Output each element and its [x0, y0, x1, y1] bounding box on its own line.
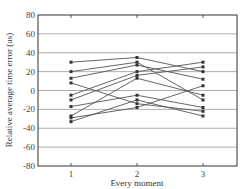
data-point-marker	[136, 64, 139, 67]
data-point-marker	[136, 74, 139, 77]
y-axis-title: Relative average time error (us)	[4, 33, 14, 147]
y-tick-label: 60	[26, 29, 36, 39]
y-tick-label: -40	[23, 123, 35, 133]
data-point-marker	[70, 120, 73, 123]
y-tick-label: 40	[26, 48, 36, 58]
x-tick-label: 3	[201, 169, 206, 179]
data-point-marker	[70, 94, 73, 97]
data-point-marker	[202, 114, 205, 117]
data-point-marker	[70, 61, 73, 64]
data-point-marker	[202, 106, 205, 109]
x-tick-label: 1	[69, 169, 74, 179]
y-axis-ticks: 806040200-20-40-60-80	[23, 10, 36, 171]
y-tick-label: -60	[23, 142, 35, 152]
data-point-marker	[136, 106, 139, 109]
y-tick-label: 0	[31, 86, 36, 96]
data-point-marker	[136, 77, 139, 80]
y-tick-label: 80	[26, 10, 36, 20]
data-point-marker	[202, 65, 205, 68]
data-point-marker	[202, 110, 205, 113]
data-point-marker	[202, 84, 205, 87]
data-point-marker	[70, 105, 73, 108]
data-point-marker	[136, 102, 139, 105]
data-point-marker	[202, 98, 205, 101]
data-point-marker	[136, 61, 139, 64]
data-point-marker	[202, 94, 205, 97]
y-tick-label: -20	[23, 104, 35, 114]
data-point-marker	[70, 81, 73, 84]
data-point-marker	[70, 98, 73, 101]
data-point-marker	[136, 94, 139, 97]
data-point-marker	[136, 56, 139, 59]
data-point-marker	[202, 70, 205, 73]
data-point-marker	[136, 98, 139, 101]
y-tick-label: 20	[26, 67, 36, 77]
data-point-marker	[202, 61, 205, 64]
y-tick-label: -80	[23, 161, 35, 171]
data-point-marker	[136, 70, 139, 73]
gridlines	[38, 34, 237, 147]
data-point-marker	[70, 116, 73, 119]
data-series	[70, 56, 205, 123]
line-chart: 806040200-20-40-60-80 123 Every moment R…	[0, 0, 248, 189]
x-axis-title: Every moment	[110, 178, 164, 188]
data-point-marker	[202, 78, 205, 81]
series-line	[71, 78, 203, 116]
x-axis-ticks: 123	[69, 15, 206, 179]
data-point-marker	[70, 70, 73, 73]
data-point-marker	[70, 77, 73, 80]
